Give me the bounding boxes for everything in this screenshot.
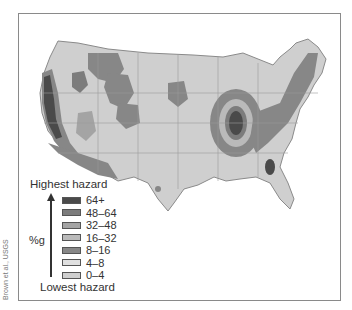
legend-item: 48–64 <box>62 207 117 220</box>
legend-highest-label: Highest hazard <box>30 178 107 190</box>
legend-swatch <box>62 197 81 204</box>
legend: Highest hazard %g 64+ 48–64 32–48 16–32 … <box>25 178 135 298</box>
legend-item: 8–16 <box>62 244 117 257</box>
legend-item: 16–32 <box>62 232 117 245</box>
legend-swatch <box>62 259 81 266</box>
legend-swatch <box>62 234 81 241</box>
legend-swatch <box>62 222 81 229</box>
legend-swatches: 64+ 48–64 32–48 16–32 8–16 4–8 0–4 <box>62 194 117 282</box>
legend-lowest-label: Lowest hazard <box>40 281 115 293</box>
legend-swatch <box>62 272 81 279</box>
arrow-line <box>50 200 52 277</box>
legend-item: 0–4 <box>62 269 117 282</box>
image-credit: Brown et al., USGS <box>2 239 9 300</box>
legend-unit: %g <box>29 234 45 246</box>
legend-swatch <box>62 247 81 254</box>
legend-item: 4–8 <box>62 257 117 270</box>
legend-swatch <box>62 209 81 216</box>
legend-item: 64+ <box>62 194 117 207</box>
legend-item: 32–48 <box>62 219 117 232</box>
